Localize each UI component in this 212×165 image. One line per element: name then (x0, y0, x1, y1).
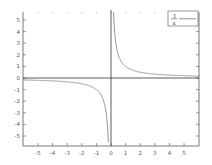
x-tick-label: -2 (79, 150, 84, 156)
tick-labels: -5-4-3-2-1012345-5-4-3-2-1012345 (15, 17, 187, 156)
zero-axes (23, 10, 199, 146)
x-tick-label: -4 (50, 150, 56, 156)
x-tick-label: -5 (35, 150, 41, 156)
y-tick-label: -4 (15, 121, 21, 127)
y-tick-label: 0 (17, 75, 21, 81)
x-tick-label: -3 (64, 150, 70, 156)
y-tick-label: -5 (15, 133, 21, 139)
x-tick-label: 5 (182, 150, 186, 156)
legend-numerator: 1 (173, 13, 177, 19)
x-tick-label: 0 (109, 150, 113, 156)
x-tick-label: 4 (168, 150, 172, 156)
y-tick-label: -2 (15, 98, 20, 104)
y-tick-label: -3 (15, 110, 21, 116)
x-tick-label: 2 (138, 150, 142, 156)
x-tick-label: 3 (153, 150, 157, 156)
y-tick-label: 4 (17, 29, 21, 35)
y-tick-label: -1 (15, 87, 20, 93)
chart: -5-4-3-2-1012345-5-4-3-2-1012345 1 x (0, 0, 212, 165)
y-tick-label: 5 (17, 17, 21, 23)
y-tick-label: 1 (17, 63, 21, 69)
y-tick-label: 3 (17, 40, 21, 46)
curve-1-over-x-negative-branch (22, 80, 108, 143)
x-tick-label: -1 (94, 150, 99, 156)
y-tick-label: 2 (17, 52, 21, 58)
legend: 1 x (168, 11, 198, 26)
x-tick-label: 1 (124, 150, 128, 156)
